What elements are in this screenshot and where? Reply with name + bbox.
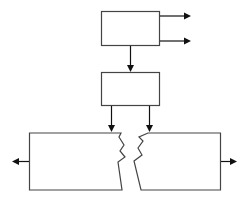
arrowhead-right-icon [184, 38, 191, 45]
arrowhead-right-icon [230, 158, 237, 165]
right-output-arrow [221, 158, 237, 165]
arrowhead-down-icon [127, 65, 134, 72]
top-to-middle-arrow [127, 46, 134, 72]
left-output-arrow [12, 158, 29, 165]
middle-to-right-arrow [146, 106, 153, 132]
bottom-left-box [30, 133, 126, 190]
top-output-arrow-2 [160, 38, 191, 45]
arrowhead-down-icon [108, 125, 115, 132]
arrowhead-left-icon [12, 158, 19, 165]
arrowhead-right-icon [184, 13, 191, 20]
top-output-arrow-1 [160, 13, 191, 20]
middle-box [102, 73, 160, 106]
bottom-right-box [134, 133, 221, 190]
arrowhead-down-icon [146, 125, 153, 132]
middle-to-left-arrow [108, 106, 115, 132]
block-diagram [0, 0, 241, 199]
top-box [102, 12, 160, 46]
